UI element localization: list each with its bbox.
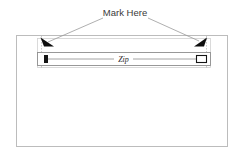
zipper-slider-pull-icon [197, 56, 207, 63]
zipper-bottom-stop-icon [44, 55, 48, 63]
mark-here-label: Mark Here [103, 7, 147, 18]
diagram-canvas: Zip Mark Here [0, 0, 249, 156]
zipper-marking-diagram: Zip Mark Here [0, 0, 249, 156]
zip-label: Zip [118, 55, 129, 64]
